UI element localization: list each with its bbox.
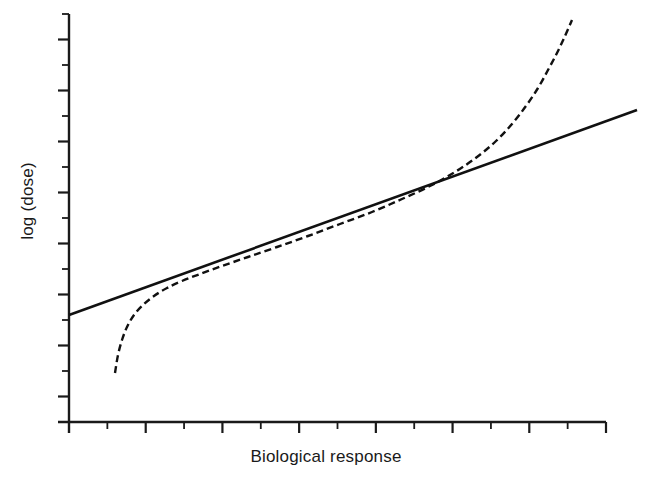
- y-axis-ticks: [58, 14, 69, 397]
- y-axis-label-container: log (dose): [13, 111, 43, 291]
- x-axis-label: Biological response: [0, 447, 652, 467]
- y-axis-label: log (dose): [18, 162, 38, 240]
- plot-canvas: [0, 0, 652, 481]
- chart-figure: Biological response log (dose): [0, 0, 652, 481]
- x-axis-ticks: [107, 422, 606, 433]
- axes: [58, 14, 606, 433]
- data-series-group: [69, 20, 637, 373]
- series-line-1: [115, 20, 572, 373]
- series-line-0: [69, 110, 637, 315]
